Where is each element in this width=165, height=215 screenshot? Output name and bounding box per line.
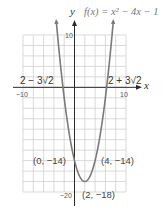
root-left-label: 2 − 3√2 — [20, 76, 54, 86]
point-4-neg14-label: (4, −14) — [101, 156, 134, 166]
y-tick-max: 10 — [65, 32, 73, 39]
function-plot — [0, 0, 165, 215]
x-tick-min: −10 — [16, 91, 28, 98]
axes — [13, 20, 142, 206]
y-axis-label: y — [70, 6, 75, 17]
vertex-label: (2, −18) — [82, 190, 115, 200]
x-tick-max: 10 — [120, 91, 128, 98]
function-label: f(x) = x² − 4x − 1 — [84, 7, 159, 18]
root-right-label: 2 + 3√2 — [108, 76, 142, 86]
y-tick-min: −20 — [60, 192, 72, 199]
x-axis-label: x — [144, 80, 149, 91]
point-0-neg14-label: (0, −14) — [33, 156, 66, 166]
